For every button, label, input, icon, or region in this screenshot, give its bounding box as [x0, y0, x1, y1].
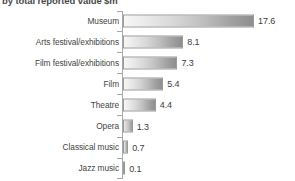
bar	[123, 56, 177, 69]
bar-group: 5.4	[123, 77, 179, 90]
bar	[123, 14, 254, 27]
bar	[123, 120, 133, 133]
bar	[123, 162, 125, 175]
table-row: Opera 1.3	[0, 116, 295, 137]
bar-group: 0.7	[123, 141, 144, 154]
category-label: Film festival/exhibitions	[35, 58, 119, 68]
bar-group: 4.4	[123, 98, 172, 111]
category-label: Museum	[87, 16, 119, 26]
table-row: Film festival/exhibitions 7.3	[0, 52, 295, 73]
category-label: Jazz music	[78, 163, 119, 173]
table-row: Theatre 4.4	[0, 94, 295, 115]
value-label: 17.6	[258, 16, 275, 26]
bar	[123, 77, 163, 90]
bar-group: 1.3	[123, 120, 149, 133]
chart-title: by total reported value $m	[2, 0, 118, 6]
table-row: Film 5.4	[0, 73, 295, 94]
bar-group: 17.6	[123, 14, 275, 27]
category-label: Film	[104, 79, 119, 89]
table-row: Museum 17.6	[0, 10, 295, 31]
bar-group: 8.1	[123, 35, 200, 48]
value-label: 7.3	[181, 58, 193, 68]
bar-chart: by total reported value $m Museum 17.6 A…	[0, 0, 295, 181]
table-row: Jazz music 0.1	[0, 158, 295, 179]
category-label: Opera	[96, 121, 119, 131]
value-label: 0.1	[129, 163, 141, 173]
plot-area: Museum 17.6 Arts festival/exhibitions 8.…	[0, 10, 295, 181]
bar	[123, 35, 183, 48]
bar-group: 7.3	[123, 56, 194, 69]
table-row: Classical music 0.7	[0, 137, 295, 158]
bar	[123, 141, 128, 154]
category-label: Theatre	[91, 100, 119, 110]
value-label: 4.4	[160, 100, 172, 110]
bar-group: 0.1	[123, 162, 141, 175]
value-label: 0.7	[132, 142, 144, 152]
value-label: 1.3	[137, 121, 149, 131]
category-label: Classical music	[63, 142, 119, 152]
bar	[123, 98, 156, 111]
value-label: 5.4	[167, 79, 179, 89]
category-label: Arts festival/exhibitions	[36, 37, 119, 47]
value-label: 8.1	[187, 37, 199, 47]
table-row: Arts festival/exhibitions 8.1	[0, 31, 295, 52]
